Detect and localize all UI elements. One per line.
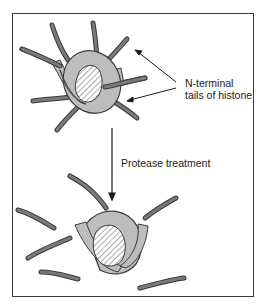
intact-nucleosome [22,23,145,130]
tail-pointer-arrows [127,50,176,102]
protease-treatment-label: Protease treatment [121,157,210,169]
treatment-arrow [109,128,115,200]
tails-label-line1: N-terminal [185,77,252,89]
tails-label: N-terminal tails of histone [185,77,252,101]
tails-label-line2: tails of histone [185,89,252,101]
nucleosome-diagram [0,0,266,307]
treated-nucleosome [18,176,184,288]
